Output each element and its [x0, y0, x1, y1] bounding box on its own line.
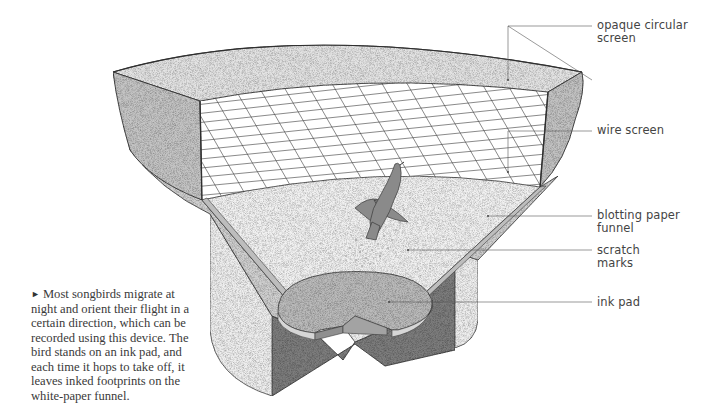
funnel-diagram: opaque circular screen wire screen blott…: [0, 0, 714, 420]
caption: ►Most songbirds migrate at night and ori…: [31, 287, 201, 403]
ink-pad: [278, 272, 432, 340]
label-wire-screen: wire screen: [597, 124, 664, 137]
caption-text: Most songbirds migrate at night and orie…: [31, 287, 189, 403]
pointer-triangle-icon: ►: [31, 289, 40, 299]
label-ink-pad: ink pad: [597, 296, 640, 309]
label-blotting-paper-funnel: blotting paper funnel: [597, 209, 680, 235]
label-scratch-marks: scratch marks: [597, 244, 640, 270]
label-opaque-circular-screen: opaque circular screen: [597, 19, 688, 45]
